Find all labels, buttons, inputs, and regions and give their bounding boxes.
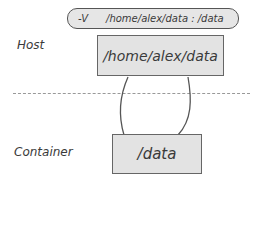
mount-link-left [121,77,128,135]
mount-link-right [178,77,190,135]
container-path: /data [138,145,177,163]
container-path-box: /data [112,134,202,174]
container-label: Container [14,145,73,159]
